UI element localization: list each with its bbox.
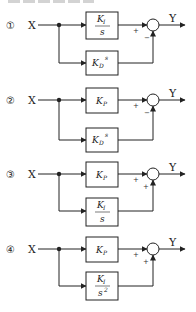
summing-junction: [147, 243, 159, 255]
block-denominator: s: [100, 27, 105, 37]
sign-top: +: [133, 102, 139, 110]
sign-bottom: +: [143, 183, 149, 191]
sign-bottom: −: [144, 109, 150, 117]
output-label: Y: [168, 87, 177, 100]
sign-top: +: [133, 27, 139, 35]
diagram-1: ① X K I s K D s + − Y: [6, 12, 185, 75]
input-label: X: [28, 243, 36, 256]
diagram-2: ② X K P K D s + − Y: [6, 87, 185, 152]
option-number: ③: [6, 169, 15, 180]
diagram-4: ④ X K P K I s 2 + + Y: [6, 236, 185, 300]
option-number: ①: [6, 20, 15, 31]
block-diagrams: ① X K I s K D s + − Y ② X K P K D s: [0, 0, 196, 312]
input-label: X: [28, 19, 36, 32]
option-number: ②: [6, 95, 15, 106]
diagram-3: ③ X K P K I s + + Y: [6, 161, 185, 226]
output-label: Y: [168, 12, 177, 25]
block-suffix: s: [105, 54, 108, 61]
summing-junction: [147, 19, 159, 31]
block-superscript: 2: [103, 286, 108, 293]
option-number: ④: [6, 244, 15, 255]
summing-junction: [147, 168, 159, 180]
block-denominator: s: [98, 288, 103, 298]
block-suffix: s: [105, 131, 108, 138]
block-denominator: s: [100, 214, 105, 224]
sign-top: +: [133, 251, 139, 259]
output-label: Y: [168, 161, 177, 174]
block-subscript: D: [98, 139, 104, 146]
output-label: Y: [168, 236, 177, 249]
block-subscript: D: [98, 62, 104, 69]
sign-top: +: [133, 176, 139, 184]
input-label: X: [28, 168, 36, 181]
sign-bottom: −: [144, 34, 150, 42]
summing-junction: [147, 94, 159, 106]
input-label: X: [28, 94, 36, 107]
sign-bottom: +: [143, 258, 149, 266]
